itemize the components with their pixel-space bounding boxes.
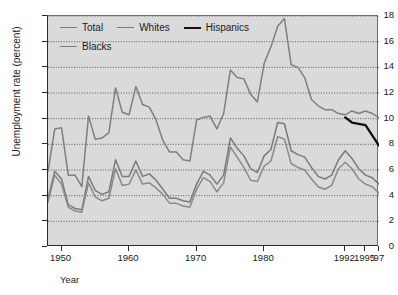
x-tick-mark [378, 246, 379, 251]
legend-label: Hispanics [206, 23, 249, 33]
x-tick-mark [128, 246, 129, 251]
x-tick-mark [263, 246, 264, 251]
legend-swatch-icon [60, 27, 77, 28]
legend-swatch-icon [117, 27, 134, 28]
y-axis-label: Unemployment rate (percent) [11, 12, 22, 172]
legend-swatch-icon [184, 27, 201, 29]
legend-row: TotalWhitesHispanics [60, 18, 310, 37]
legend-label: Whites [139, 23, 170, 33]
x-tick-label: 1950 [41, 253, 81, 263]
x-tick-mark [344, 246, 345, 251]
legend-swatch-icon [60, 46, 77, 47]
legend-item-hispanics: Hispanics [184, 23, 249, 33]
legend-item-whites: Whites [117, 23, 170, 33]
legend-label: Blacks [82, 42, 111, 52]
legend-row: Blacks [60, 37, 310, 56]
x-tick-label: 1960 [108, 253, 148, 263]
legend-label: Total [82, 23, 103, 33]
legend-item-blacks: Blacks [60, 42, 111, 52]
x-tick-mark [61, 246, 62, 251]
series-line-total [48, 123, 379, 210]
x-tick-label: '97 [358, 253, 398, 263]
y-tick-mark [42, 246, 47, 247]
series-line-whites [48, 137, 379, 213]
x-tick-label: 1980 [243, 253, 283, 263]
x-tick-mark [364, 246, 365, 251]
chart-legend: TotalWhitesHispanicsBlacks [60, 18, 310, 56]
x-tick-mark [196, 246, 197, 251]
series-line-hispanics [345, 117, 379, 145]
legend-item-total: Total [60, 23, 103, 33]
x-tick-label: 1970 [176, 253, 216, 263]
x-axis-label: Year [60, 274, 79, 285]
